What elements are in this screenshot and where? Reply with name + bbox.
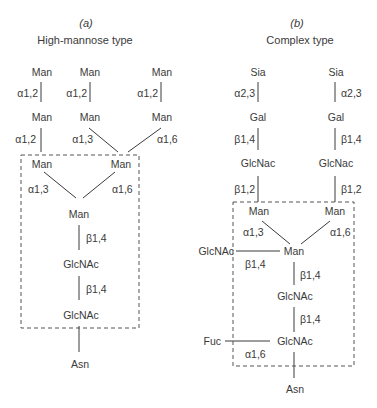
linkage-label: β1,4: [86, 284, 107, 295]
node-glcnac: GlcNac: [319, 158, 353, 169]
linkage-label: α1,2: [137, 88, 158, 99]
node-man: Man: [80, 67, 100, 78]
node-man: Man: [249, 206, 269, 217]
node-glcnac: GlcNAc: [63, 310, 99, 321]
node-asn: Asn: [71, 359, 89, 370]
linkage-label: β1,4: [300, 314, 321, 325]
linkage-label: α1,6: [112, 184, 133, 195]
node-man: Man: [32, 112, 52, 123]
node-glcnac: GlcNAc: [277, 291, 313, 302]
node-man: Man: [152, 112, 172, 123]
linkage-label: β1,2: [234, 184, 255, 195]
node-glcnac: GlcNac: [241, 158, 275, 169]
diagram-lines: [0, 0, 377, 408]
linkage-label: α1,6: [245, 349, 266, 360]
node-man: Man: [32, 159, 52, 170]
node-glcnac-bisecting: GlcNAc: [198, 246, 234, 257]
node-man: Man: [284, 246, 304, 257]
bond-line: [262, 221, 290, 244]
linkage-label: β1,4: [341, 134, 362, 145]
linkage-label: α2,3: [341, 88, 362, 99]
node-man: Man: [152, 67, 172, 78]
bond-line: [301, 221, 330, 244]
linkage-label: β1,4: [86, 233, 107, 244]
node-man: Man: [80, 112, 100, 123]
node-man: Man: [69, 209, 89, 220]
linkage-label: α1,6: [330, 227, 351, 238]
node-fuc: Fuc: [203, 336, 221, 347]
linkage-label: α2,3: [234, 88, 255, 99]
linkage-label: β1,4: [300, 270, 321, 281]
linkage-label: β1,2: [341, 184, 362, 195]
linkage-label: α1,3: [72, 134, 93, 145]
panel-b-label: (b): [290, 18, 303, 29]
linkage-label: α1,2: [17, 88, 38, 99]
node-man: Man: [111, 159, 131, 170]
panel-a-label: (a): [79, 18, 92, 29]
bond-line: [89, 128, 118, 152]
node-gal: Gal: [250, 112, 266, 123]
node-man: Man: [32, 67, 52, 78]
linkage-label: α1,6: [157, 134, 178, 145]
core-pentasaccharide-box-a: [21, 155, 139, 328]
linkage-label: β1,4: [234, 134, 255, 145]
node-glcnac: GlcNAc: [63, 259, 99, 270]
bond-line: [83, 172, 115, 198]
node-man: Man: [325, 206, 345, 217]
panel-a-title: High-mannose type: [37, 35, 132, 46]
node-gal: Gal: [328, 112, 344, 123]
linkage-label: β1,4: [245, 259, 266, 270]
panel-b-title: Complex type: [266, 35, 333, 46]
linkage-label: α1,3: [28, 184, 49, 195]
node-sia: Sia: [328, 67, 343, 78]
node-asn: Asn: [286, 384, 304, 395]
node-sia: Sia: [250, 67, 265, 78]
linkage-label: α1,2: [15, 134, 36, 145]
linkage-label: α1,3: [243, 227, 264, 238]
node-glcnac: GlcNAc: [277, 336, 313, 347]
linkage-label: α1,2: [66, 88, 87, 99]
